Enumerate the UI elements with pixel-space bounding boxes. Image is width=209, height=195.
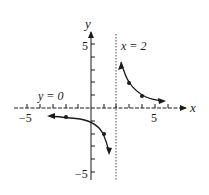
y-axis-label: y [83, 16, 91, 31]
arrow-right-icon [158, 98, 166, 104]
y-axis [91, 32, 95, 180]
vertical-asymptote-label: x = 2 [120, 39, 146, 53]
x-tick-label-neg5: −5 [19, 111, 32, 125]
curve-left-branch [50, 116, 109, 152]
x-tick-label-5: 5 [151, 111, 157, 125]
x-axis-label: x [189, 100, 196, 115]
arrow-down-icon [106, 147, 112, 155]
function-graph: y x 5 −5 −5 5 x = 2 y = 0 [0, 0, 209, 195]
arrow-left-icon [47, 113, 55, 119]
horizontal-asymptote-label: y = 0 [37, 89, 63, 103]
y-tick-label-5: 5 [82, 39, 88, 53]
y-tick-label-neg5: −5 [75, 167, 88, 181]
x-axis [14, 104, 186, 108]
